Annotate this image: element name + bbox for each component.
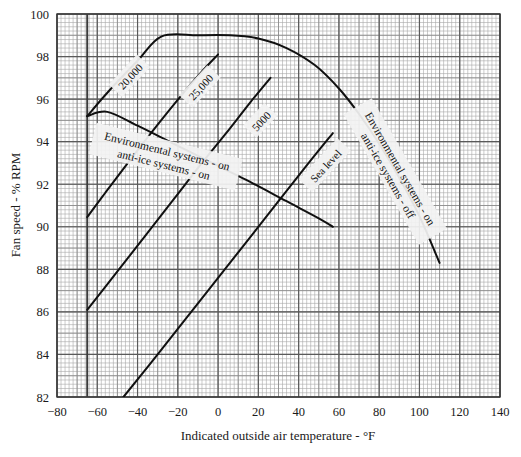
x-tick-label: 80 xyxy=(373,405,386,419)
y-tick-label: 90 xyxy=(37,220,50,234)
y-tick-label: 82 xyxy=(37,391,50,405)
y-tick-label: 84 xyxy=(37,348,50,362)
x-tick-label: 140 xyxy=(491,405,510,419)
y-tick-label: 92 xyxy=(37,178,50,192)
x-tick-label: 0 xyxy=(215,405,221,419)
x-tick-label: 60 xyxy=(333,405,346,419)
x-axis-title: Indicated outside air temperature - °F xyxy=(181,428,376,443)
y-tick-label: 86 xyxy=(37,305,50,319)
x-tick-label: −60 xyxy=(87,405,107,419)
x-tick-label: 40 xyxy=(292,405,305,419)
y-tick-label: 88 xyxy=(37,263,50,277)
y-tick-label: 100 xyxy=(30,8,49,22)
x-tick-label: −80 xyxy=(47,405,67,419)
y-tick-label: 98 xyxy=(37,50,50,64)
chart-container: 20,00025,0005000Sea level Environmental … xyxy=(0,0,521,457)
y-tick-label: 96 xyxy=(37,93,50,107)
x-tick-label: −20 xyxy=(168,405,188,419)
x-tick-label: −40 xyxy=(128,405,148,419)
fan-speed-chart: 20,00025,0005000Sea level Environmental … xyxy=(0,0,521,457)
y-axis-title: Fan speed - % RPM xyxy=(8,152,23,257)
y-tick-label: 94 xyxy=(37,135,50,149)
x-tick-label: 120 xyxy=(450,405,469,419)
x-tick-label: 100 xyxy=(410,405,429,419)
x-tick-label: 20 xyxy=(252,405,265,419)
